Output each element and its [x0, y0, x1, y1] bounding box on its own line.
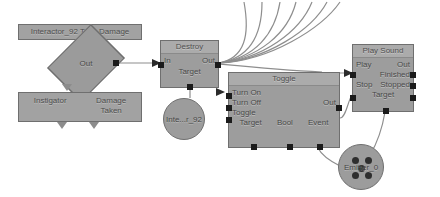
- port-play-sound-play[interactable]: [350, 72, 356, 78]
- port-toggle-bool[interactable]: [287, 144, 293, 150]
- play-sound-input-stop: Stop: [356, 81, 372, 89]
- node-play-sound[interactable]: Play Sound Play Out Finished Stop Stoppe…: [352, 44, 414, 112]
- node-graph-canvas[interactable]: Interactor_92 Take Damage Out Instigator…: [0, 0, 440, 197]
- port-play-sound-target[interactable]: [383, 108, 389, 114]
- event-param-instigator: Instigator: [34, 96, 67, 105]
- play-sound-output-stopped: Stopped: [380, 81, 410, 89]
- toggle-port-label-event: Event: [308, 119, 328, 127]
- node-out-label: Out: [62, 40, 110, 86]
- toggle-input-turn-off: Turn Off: [232, 99, 261, 107]
- node-interactor-reference-label: Inte...r_92: [166, 115, 202, 124]
- node-emitter[interactable]: Emitter_0: [338, 144, 384, 190]
- port-play-sound-stop[interactable]: [350, 95, 356, 101]
- wire-destroy-to-toggle: [219, 64, 322, 72]
- wire-fan-6: [219, 2, 327, 63]
- toggle-port-label-target: Target: [240, 119, 262, 127]
- port-toggle-turn-off[interactable]: [226, 105, 232, 111]
- node-toggle-title: Toggle: [229, 73, 339, 86]
- port-play-sound-out[interactable]: [410, 72, 416, 78]
- toggle-input-turn-on: Turn On: [232, 89, 261, 97]
- toggle-port-label-bool: Bool: [277, 119, 293, 127]
- pin-event-params-top[interactable]: [62, 84, 72, 91]
- wire-fan-5: [219, 2, 312, 63]
- arrow-toggle-in: [216, 88, 225, 96]
- port-play-sound-stopped[interactable]: [410, 95, 416, 101]
- wire-fan-2: [219, 2, 262, 63]
- toggle-output-out: Out: [323, 99, 336, 107]
- port-toggle-target[interactable]: [251, 144, 257, 150]
- wire-fan-3: [219, 2, 280, 63]
- node-play-sound-title: Play Sound: [353, 45, 413, 58]
- port-destroy-in[interactable]: [158, 62, 164, 68]
- wire-fan-7: [219, 2, 340, 63]
- pin-damage-taken-out[interactable]: [89, 122, 99, 129]
- toggle-input-toggle: Toggle: [232, 109, 256, 117]
- wire-fan-1: [219, 2, 246, 63]
- port-destroy-out[interactable]: [215, 62, 221, 68]
- node-interactor-reference[interactable]: Inte...r_92: [163, 98, 205, 140]
- port-toggle-turn-on[interactable]: [226, 93, 232, 99]
- destroy-target-label: Target: [178, 67, 200, 76]
- port-play-sound-finished[interactable]: [410, 83, 416, 89]
- play-sound-input-play: Play: [356, 61, 372, 69]
- event-param-taken: Taken: [100, 106, 121, 115]
- play-sound-input-target: Target: [372, 90, 394, 99]
- wire-event-to-emitter: [318, 148, 340, 166]
- node-emitter-label: Emitter_0: [344, 163, 378, 172]
- play-sound-output-out: Out: [397, 61, 410, 69]
- port-toggle-event[interactable]: [317, 144, 323, 150]
- node-toggle[interactable]: Toggle Turn On Turn Off Out Toggle Targe…: [228, 72, 340, 148]
- pin-instigator-out[interactable]: [57, 122, 67, 129]
- node-destroy-title: Destroy: [161, 41, 218, 54]
- node-out-exec[interactable]: Out: [62, 40, 110, 86]
- port-destroy-target[interactable]: [187, 84, 193, 90]
- destroy-out-label: Out: [202, 57, 215, 65]
- event-param-damage: Damage: [96, 96, 126, 105]
- destroy-in-label: In: [164, 57, 171, 65]
- node-event-params[interactable]: Instigator Damage Taken: [18, 92, 142, 122]
- port-toggle-toggle[interactable]: [226, 117, 232, 123]
- wire-fan-4: [219, 2, 296, 63]
- play-sound-output-finished: Finished: [380, 71, 410, 79]
- port-toggle-out[interactable]: [336, 105, 342, 111]
- node-destroy[interactable]: Destroy In Out Target: [160, 40, 219, 88]
- port-out-exec[interactable]: [113, 60, 119, 66]
